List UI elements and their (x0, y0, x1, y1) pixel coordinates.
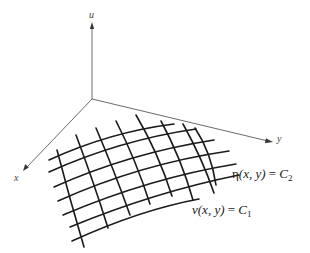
nu-subscript: 1 (247, 209, 252, 219)
diagram-canvas (0, 0, 310, 253)
u-axis-arrow-icon (90, 22, 94, 29)
x-axis-label: x (14, 172, 18, 183)
eta-constant: C (279, 166, 288, 181)
nu-curve-label: ν(x, y) = C1 (192, 202, 252, 219)
nu-args: (x, y) (198, 202, 225, 217)
eta-symbol: η (232, 166, 239, 181)
eta-curve-label: η(x, y) = C2 (232, 166, 293, 183)
eta-subscript: 2 (288, 173, 293, 183)
nu-equals: = (228, 202, 235, 217)
y-axis-label: y (277, 133, 281, 144)
surface-grid-diagram: u y x η(x, y) = C2 ν(x, y) = C1 (0, 0, 310, 253)
nu-constant: C (238, 202, 247, 217)
eta-curve (49, 124, 174, 160)
nu-curve (76, 135, 108, 228)
eta-args: (x, y) (239, 166, 266, 181)
eta-curve (72, 199, 199, 241)
eta-equals: = (269, 166, 276, 181)
nu-curve (57, 150, 84, 247)
nu-curve-family (57, 115, 216, 247)
y-axis-arrow-icon (265, 138, 273, 143)
u-axis-label: u (89, 9, 94, 20)
axes (23, 22, 273, 171)
x-axis-arrow-icon (23, 164, 29, 171)
